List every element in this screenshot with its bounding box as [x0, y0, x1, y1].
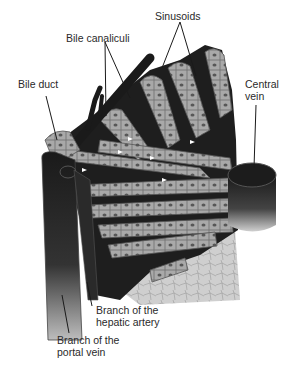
label-bile-canaliculi: Bile canaliculi [66, 32, 130, 44]
label-central-vein-line2: vein [245, 90, 264, 102]
label-central-vein-line1: Central [245, 78, 279, 90]
label-portal-vein-line1: Branch of the [57, 334, 119, 346]
central-vein-vessel [228, 163, 276, 232]
label-hepatic-artery-line2: hepatic artery [96, 316, 160, 328]
label-hepatic-artery-line1: Branch of the [96, 304, 158, 316]
label-portal-vein-line2: portal vein [57, 346, 105, 358]
label-sinusoids: Sinusoids [155, 10, 201, 22]
label-bile-duct: Bile duct [18, 78, 58, 90]
